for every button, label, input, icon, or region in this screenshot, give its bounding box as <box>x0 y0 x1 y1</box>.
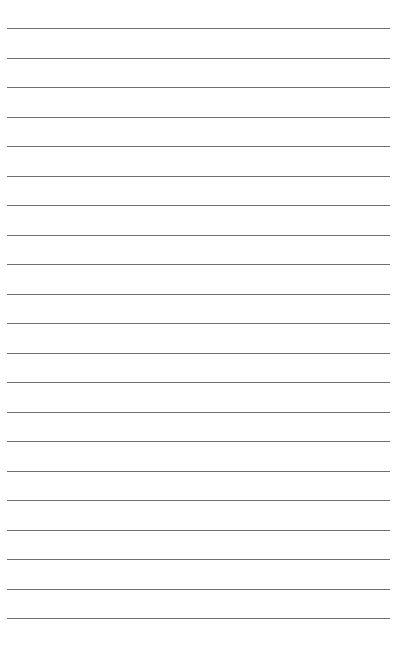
ruled-line <box>7 589 390 590</box>
ruled-line <box>7 235 390 236</box>
ruled-line <box>7 441 390 442</box>
cut-off-header-text <box>0 0 397 4</box>
ruled-line <box>7 412 390 413</box>
ruled-line <box>7 294 390 295</box>
ruled-line <box>7 176 390 177</box>
ruled-line <box>7 87 390 88</box>
lined-paper-page <box>0 0 397 657</box>
ruled-line <box>7 146 390 147</box>
ruled-line <box>7 264 390 265</box>
ruled-line <box>7 323 390 324</box>
ruled-line <box>7 117 390 118</box>
ruled-line <box>7 353 390 354</box>
ruled-line <box>7 205 390 206</box>
ruled-line <box>7 559 390 560</box>
ruled-line <box>7 500 390 501</box>
ruled-line <box>7 471 390 472</box>
ruled-line <box>7 58 390 59</box>
ruled-line <box>7 28 390 29</box>
ruled-line <box>7 530 390 531</box>
ruled-line <box>7 618 390 619</box>
ruled-line <box>7 382 390 383</box>
